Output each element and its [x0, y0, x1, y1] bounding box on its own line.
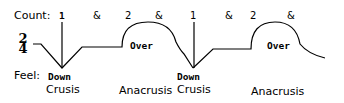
down-label-2: Down — [177, 71, 200, 83]
wave-path-2 — [193, 22, 325, 68]
anacrusis-label-1: Anacrusis — [119, 85, 172, 97]
feel-label: Feel: — [14, 70, 40, 82]
over-label-1: Over — [130, 40, 153, 52]
over-label-2: Over — [267, 40, 290, 52]
crusis-label-2: Crusis — [177, 84, 211, 96]
crusis-label-1: Crusis — [46, 84, 80, 96]
anacrusis-label-2: Anacrusis — [251, 86, 304, 98]
wave-path-1 — [33, 22, 193, 68]
down-label-1: Down — [48, 71, 71, 83]
